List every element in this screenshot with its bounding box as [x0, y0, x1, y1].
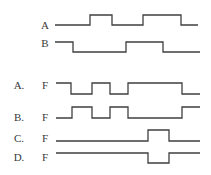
option-a-waveform [56, 83, 200, 94]
input-b-label: B [41, 37, 48, 49]
option-c-signal-label: F [42, 132, 48, 144]
option-b: B. F [14, 107, 200, 123]
option-a-signal-label: F [42, 79, 48, 91]
option-a: A. F [14, 79, 200, 94]
option-d-letter: D. [14, 151, 25, 163]
answer-options: A. F B. F C. F D. F [14, 79, 200, 163]
option-a-letter: A. [14, 79, 25, 91]
option-d: D. F [14, 151, 200, 163]
input-a-label: A [41, 19, 49, 31]
option-c: C. F [14, 130, 200, 144]
timing-diagram: A B A. F B. F C. F D. F [0, 0, 211, 175]
option-b-letter: B. [14, 111, 24, 123]
option-b-signal-label: F [42, 111, 48, 123]
input-a-waveform [55, 15, 198, 25]
input-b: B [41, 37, 200, 52]
option-c-letter: C. [14, 132, 24, 144]
option-d-signal-label: F [42, 151, 48, 163]
input-waveforms: A B [41, 15, 200, 52]
input-a: A [41, 15, 198, 31]
option-c-waveform [56, 130, 200, 141]
option-d-waveform [56, 153, 200, 163]
input-b-waveform [55, 42, 200, 52]
option-b-waveform [56, 107, 200, 118]
